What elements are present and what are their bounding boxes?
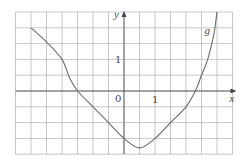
y-tick-label-1: 1 xyxy=(115,54,121,65)
x-tick-label-1: 1 xyxy=(152,94,158,105)
origin-label: 0 xyxy=(115,93,121,104)
curve-label-g: g xyxy=(205,24,211,36)
function-graph: x y 0 1 1 g xyxy=(0,0,245,162)
y-axis-label: y xyxy=(113,8,119,20)
x-axis-label: x xyxy=(229,92,235,104)
